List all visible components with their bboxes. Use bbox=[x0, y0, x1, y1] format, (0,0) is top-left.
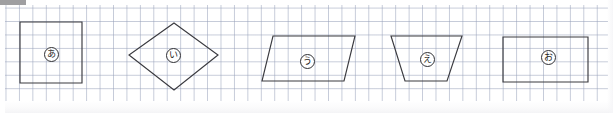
shape-label-i: い bbox=[166, 48, 181, 63]
page-bottom-edge bbox=[0, 101, 613, 113]
shape-label-e: え bbox=[420, 52, 435, 67]
shape-label-o: お bbox=[541, 50, 556, 65]
page-right-edge bbox=[607, 0, 613, 113]
shape-label-a: あ bbox=[44, 47, 59, 62]
scan-edge-artifact-icon bbox=[0, 0, 26, 5]
shape-label-u: う bbox=[300, 54, 315, 69]
page-left-margin bbox=[0, 0, 5, 113]
geometry-worksheet: あ い う え お bbox=[0, 0, 613, 113]
